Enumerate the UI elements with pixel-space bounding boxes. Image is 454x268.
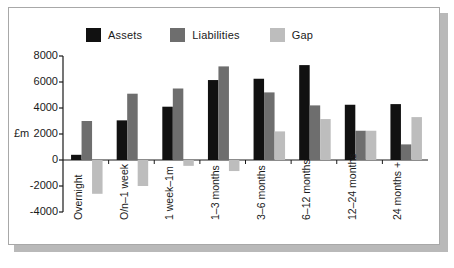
- bar-gap-5: [275, 131, 286, 160]
- y-axis-tick-label: 2000: [14, 127, 58, 139]
- y-axis-tick-label: 4000: [14, 101, 58, 113]
- plot-area: [0, 0, 454, 268]
- bar-assets-5: [254, 79, 265, 160]
- x-axis-category-label: 12–24 months: [346, 153, 358, 220]
- bar-assets-6: [299, 65, 310, 160]
- bar-liabilities-4: [218, 66, 229, 160]
- bar-gap-3: [183, 160, 194, 166]
- bar-liabilities-1: [82, 121, 93, 160]
- bar-gap-4: [229, 160, 240, 171]
- bar-liabilities-8: [401, 144, 412, 160]
- x-axis-category-label: 3–6 months: [255, 165, 267, 220]
- bar-liabilities-5: [264, 92, 275, 160]
- chart-figure: Assets Liabilities Gap £m 80006000400020…: [0, 0, 454, 268]
- bar-assets-7: [345, 105, 356, 160]
- bar-gap-8: [411, 117, 422, 160]
- bar-gap-6: [320, 119, 331, 160]
- bar-assets-1: [71, 155, 82, 160]
- bar-liabilities-6: [310, 105, 321, 160]
- bar-assets-4: [208, 80, 219, 160]
- x-axis-category-label: 1–3 months: [209, 165, 221, 220]
- bar-gap-7: [366, 131, 377, 160]
- y-axis-tick-label: 8000: [14, 49, 58, 61]
- bar-gap-1: [92, 160, 103, 194]
- bar-liabilities-2: [127, 94, 138, 160]
- bar-assets-3: [162, 107, 173, 160]
- bar-gap-2: [138, 160, 149, 186]
- y-axis-tick-label: 6000: [14, 75, 58, 87]
- y-axis-tick-label: 0: [14, 153, 58, 165]
- x-axis-category-label: O/n–1 week: [118, 164, 130, 220]
- y-axis-tick-label: -4000: [14, 205, 58, 217]
- x-axis-category-label: Overnight: [72, 174, 84, 220]
- bar-assets-2: [117, 120, 128, 160]
- x-axis-category-label: 24 months +: [391, 162, 403, 220]
- y-axis-tick-label: -2000: [14, 179, 58, 191]
- x-axis-category-label: 6–12 months: [300, 159, 312, 220]
- bar-liabilities-3: [173, 89, 184, 161]
- x-axis-category-label: 1 week–1m: [163, 166, 175, 220]
- bar-assets-8: [390, 104, 401, 160]
